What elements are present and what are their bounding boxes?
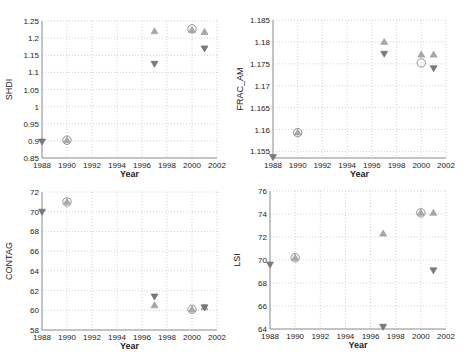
y-tick-label: 1.175	[250, 60, 271, 69]
x-tick-label: 2002	[208, 161, 226, 170]
y-tick-label: 66	[30, 247, 39, 256]
x-tick-label: 2002	[437, 161, 455, 170]
y-tick-label: 70	[258, 256, 267, 265]
subplot-frac-am: 198819901992199419961998200020021.1551.1…	[235, 16, 455, 179]
x-tick-label: 1990	[58, 161, 76, 170]
x-tick-label: 2000	[183, 333, 201, 342]
x-tick-label: 1988	[264, 161, 282, 170]
y-tick-label: 66	[258, 302, 267, 311]
x-tick-label: 1992	[311, 332, 329, 341]
x-tick-label: 1992	[314, 161, 332, 170]
y-tick-label: 64	[258, 325, 267, 334]
x-tick-label: 1998	[388, 161, 406, 170]
y-tick-label: 1.05	[23, 86, 39, 95]
x-tick-label: 1992	[83, 161, 101, 170]
x-tick-label: 1998	[158, 333, 176, 342]
x-axis-label: Year	[120, 341, 140, 351]
x-tick-label: 1992	[83, 333, 101, 342]
x-tick-label: 2000	[412, 332, 430, 341]
y-tick-label: 72	[258, 233, 267, 242]
y-tick-label: 62	[30, 287, 39, 296]
x-tick-label: 2002	[208, 333, 226, 342]
y-axis-label: LSI	[232, 253, 242, 267]
y-tick-label: 1.185	[250, 16, 271, 25]
y-axis-label: CONTAG	[4, 242, 14, 280]
x-tick-label: 1990	[58, 333, 76, 342]
x-axis-label: Year	[348, 340, 368, 350]
x-tick-label: 2000	[183, 161, 201, 170]
chart-canvas: 198819901992199419961998200020020.850.90…	[0, 0, 469, 361]
x-tick-label: 1990	[286, 332, 304, 341]
subplot-lsi: 1988199019921994199619982000200264666870…	[232, 187, 455, 350]
y-tick-label: 1	[35, 103, 40, 112]
y-tick-label: 0.85	[23, 154, 39, 163]
y-tick-label: 58	[30, 326, 39, 335]
y-tick-label: 0.9	[28, 137, 40, 146]
y-tick-label: 1.16	[254, 126, 270, 135]
y-tick-label: 0.95	[23, 120, 39, 129]
y-tick-label: 1.17	[254, 82, 270, 91]
x-tick-label: 2000	[412, 161, 430, 170]
subplot-contag: 1988199019921994199619982000200258606264…	[4, 188, 226, 351]
subplot-shdi: 198819901992199419961998200020020.850.90…	[4, 17, 226, 179]
y-tick-label: 1.1	[28, 68, 40, 77]
x-tick-label: 1998	[387, 332, 405, 341]
y-tick-label: 1.18	[254, 38, 270, 47]
y-tick-label: 1.2	[28, 34, 40, 43]
y-tick-label: 72	[30, 188, 39, 197]
y-tick-label: 76	[258, 187, 267, 196]
x-tick-label: 1998	[158, 161, 176, 170]
y-tick-label: 1.165	[250, 104, 271, 113]
y-tick-label: 74	[258, 210, 267, 219]
x-tick-label: 1990	[289, 161, 307, 170]
y-tick-label: 1.15	[23, 51, 39, 60]
y-tick-label: 68	[258, 279, 267, 288]
y-tick-label: 60	[30, 306, 39, 315]
x-axis-label: Year	[120, 169, 140, 179]
y-tick-label: 1.25	[23, 17, 39, 26]
x-tick-label: 2002	[437, 332, 455, 341]
x-axis-label: Year	[350, 169, 370, 179]
y-tick-label: 1.155	[250, 147, 271, 156]
y-tick-label: 68	[30, 227, 39, 236]
y-axis-label: SHDI	[4, 79, 14, 101]
plot-area	[273, 20, 446, 158]
y-tick-label: 64	[30, 267, 39, 276]
y-axis-label: FRAC_AM	[235, 67, 245, 110]
